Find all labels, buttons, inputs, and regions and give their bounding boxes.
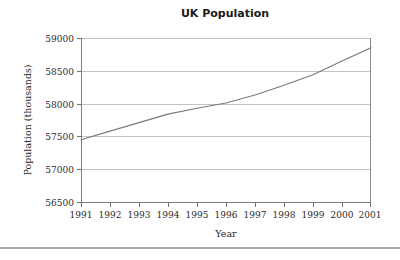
y-tick-label-58500: 58500	[45, 67, 74, 77]
y-tick-label-57000: 57000	[45, 165, 74, 175]
footer-strip	[0, 249, 400, 260]
x-tick-label-1996: 1996	[215, 210, 238, 220]
x-tick-label-2001: 2001	[359, 210, 382, 220]
y-tick-label-58000: 58000	[45, 100, 74, 110]
chart-figure: UK Population 59000 58500 58000 57500 57…	[0, 0, 400, 246]
x-tick-label-1998: 1998	[273, 210, 296, 220]
x-tick-label-1995: 1995	[186, 210, 209, 220]
x-tick-label-2000: 2000	[331, 210, 354, 220]
x-axis-title: Year	[214, 228, 237, 239]
line-chart: UK Population 59000 58500 58000 57500 57…	[0, 0, 400, 246]
x-tick-label-1999: 1999	[302, 210, 325, 220]
x-tick-label-1993: 1993	[128, 210, 151, 220]
y-axis-title: Population (thousands)	[22, 64, 33, 175]
x-tick-label-1997: 1997	[244, 210, 267, 220]
x-tick-label-1994: 1994	[157, 210, 180, 220]
x-tick-label-1991: 1991	[70, 210, 93, 220]
x-tick-label-1992: 1992	[99, 210, 122, 220]
y-tick-label-57500: 57500	[45, 132, 74, 142]
y-tick-label-56500: 56500	[45, 198, 74, 208]
chart-title: UK Population	[181, 7, 269, 20]
y-tick-label-59000: 59000	[45, 34, 74, 44]
x-tick-labels: 1991 1992 1993 1994 1995 1996 1997 1998 …	[70, 210, 382, 220]
